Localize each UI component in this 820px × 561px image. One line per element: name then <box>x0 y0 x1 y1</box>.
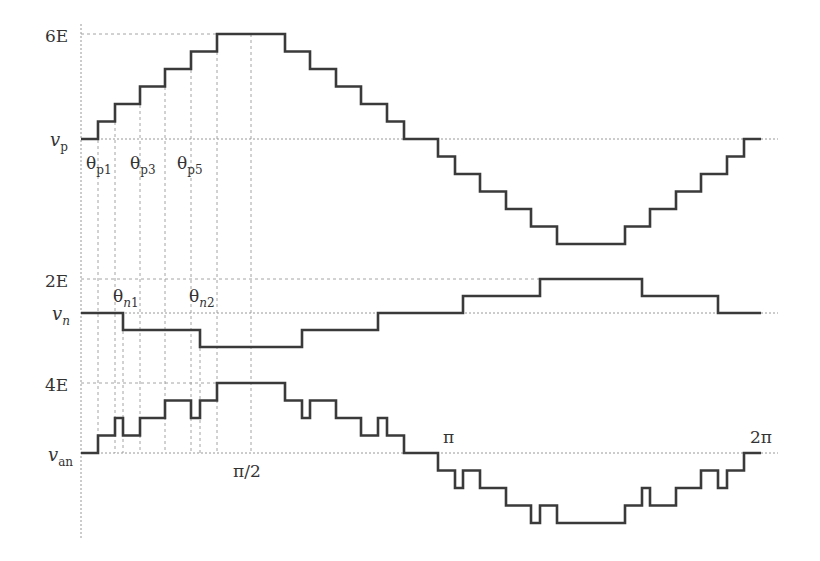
vp-max-label: 6E <box>45 26 68 46</box>
vp-axis-label: vp <box>50 129 68 154</box>
theta-p1-label: θp1 <box>86 153 112 177</box>
van-axis-label: van <box>48 444 73 469</box>
theta-n2-label: θn2 <box>189 286 215 310</box>
pi-tick-label: π <box>443 427 454 447</box>
reference-lines <box>81 34 778 453</box>
van-max-label: 4E <box>45 375 68 395</box>
vn-max-label: 2E <box>45 271 68 291</box>
theta-p5-label: θp5 <box>177 153 203 177</box>
theta-n1-label: θn1 <box>113 286 139 310</box>
pi-half-tick-label: π/2 <box>233 461 261 481</box>
waveform-figure: 6E vp θp1 θp3 θp5 2E vn θn1 θn2 4E van π… <box>0 0 820 561</box>
switching-angle-guides <box>98 34 251 453</box>
theta-p3-label: θp3 <box>130 153 156 177</box>
vn-axis-label: vn <box>52 303 70 328</box>
two-pi-tick-label: 2π <box>750 427 772 447</box>
